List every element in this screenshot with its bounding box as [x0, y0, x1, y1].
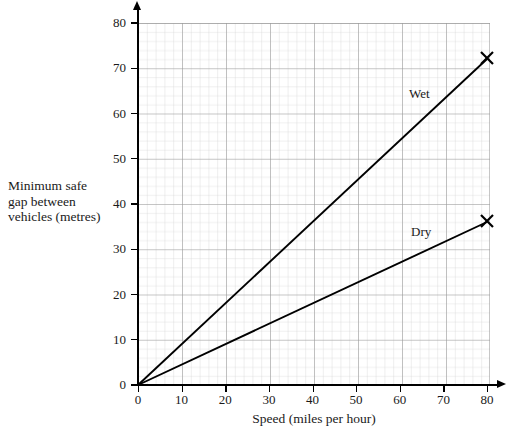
y-tick-60 [131, 113, 138, 114]
y-tick-30 [131, 249, 138, 250]
grid-lines [138, 23, 490, 385]
y-tick-10 [131, 339, 138, 340]
y-ticklabel-20: 20 [100, 287, 126, 303]
x-ticklabel-50: 50 [341, 392, 371, 408]
x-axis-arrow-icon [497, 380, 506, 388]
x-ticklabel-10: 10 [167, 392, 197, 408]
y-ticklabel-60: 60 [100, 106, 126, 122]
y-ticklabel-0: 0 [100, 377, 126, 393]
x-tick-60 [400, 385, 401, 392]
plot-area [138, 23, 490, 385]
y-ticklabel-80: 80 [100, 15, 126, 31]
x-ticklabel-70: 70 [428, 392, 458, 408]
y-ticklabel-30: 30 [100, 241, 126, 257]
x-tick-70 [443, 385, 444, 392]
y-ticklabel-50: 50 [100, 151, 126, 167]
y-ticklabel-10: 10 [100, 332, 126, 348]
y-tick-50 [131, 158, 138, 159]
x-tick-40 [313, 385, 314, 392]
x-axis-line [138, 384, 499, 386]
x-ticklabel-20: 20 [210, 392, 240, 408]
y-ticklabel-40: 40 [100, 196, 126, 212]
y-tick-80 [131, 22, 138, 23]
y-axis-line [137, 8, 139, 386]
x-tick-30 [269, 385, 270, 392]
y-tick-40 [131, 203, 138, 204]
graph-figure: Minimum safe gap between vehicles (metre… [0, 0, 516, 434]
x-tick-80 [487, 385, 488, 392]
y-axis-arrow-icon [133, 1, 141, 10]
x-tick-20 [225, 385, 226, 392]
x-tick-10 [182, 385, 183, 392]
y-tick-0 [131, 384, 138, 385]
x-ticklabel-80: 80 [472, 392, 502, 408]
x-ticklabel-40: 40 [298, 392, 328, 408]
x-ticklabel-60: 60 [385, 392, 415, 408]
x-tick-50 [356, 385, 357, 392]
x-tick-0 [138, 385, 139, 392]
x-ticklabel-0: 0 [123, 392, 153, 408]
y-ticklabel-70: 70 [100, 60, 126, 76]
y-tick-20 [131, 294, 138, 295]
series-label-dry: Dry [411, 224, 431, 240]
x-axis-label: Speed (miles per hour) [138, 411, 490, 427]
series-label-wet: Wet [409, 86, 430, 102]
x-ticklabel-30: 30 [254, 392, 284, 408]
y-tick-70 [131, 68, 138, 69]
